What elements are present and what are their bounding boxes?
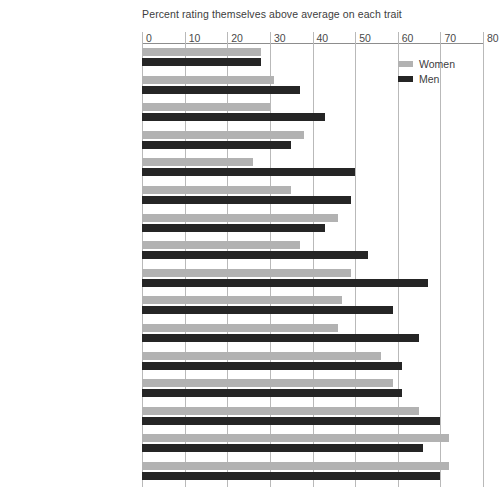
gridline-70	[440, 32, 441, 487]
chart-title: Percent rating themselves above average …	[0, 8, 498, 20]
bar-men	[142, 279, 428, 287]
x-tick-label-30: 30	[270, 32, 286, 44]
bar-men	[142, 58, 261, 66]
legend: Women Men	[398, 56, 455, 86]
bar-men	[142, 168, 355, 176]
legend-label-women: Women	[419, 58, 455, 70]
gridline-80	[483, 32, 484, 487]
bar-women	[142, 76, 274, 84]
bar-women	[142, 158, 253, 166]
bar-men	[142, 389, 402, 397]
bar-women	[142, 186, 291, 194]
bar-women	[142, 434, 449, 442]
bar-women	[142, 352, 381, 360]
bar-women	[142, 462, 449, 470]
legend-swatch-men	[398, 76, 413, 82]
bar-women	[142, 103, 270, 111]
bar-women	[142, 131, 304, 139]
bar-men	[142, 472, 440, 480]
legend-swatch-women	[398, 61, 413, 67]
x-tick-label-0: 0	[142, 32, 152, 44]
bar-men	[142, 444, 423, 452]
x-tick-label-20: 20	[227, 32, 243, 44]
bar-men	[142, 362, 402, 370]
x-tick-label-40: 40	[313, 32, 329, 44]
bar-women	[142, 379, 393, 387]
bar-women	[142, 269, 351, 277]
plot-area: 01020304050607080 Artistic abilityPublic…	[142, 44, 483, 487]
bar-men	[142, 141, 291, 149]
bar-women	[142, 324, 338, 332]
x-tick-label-10: 10	[185, 32, 201, 44]
legend-label-men: Men	[419, 73, 439, 85]
bar-men	[142, 251, 368, 259]
x-tick-label-60: 60	[398, 32, 414, 44]
bar-women	[142, 407, 419, 415]
x-tick-label-80: 80	[483, 32, 499, 44]
bar-men	[142, 196, 351, 204]
bar-men	[142, 113, 325, 121]
bar-men	[142, 334, 419, 342]
bar-women	[142, 296, 342, 304]
bar-men	[142, 417, 440, 425]
x-tick-label-50: 50	[355, 32, 371, 44]
legend-item-men: Men	[398, 71, 455, 86]
bar-men	[142, 306, 393, 314]
bar-women	[142, 48, 261, 56]
bar-men	[142, 224, 325, 232]
legend-item-women: Women	[398, 56, 455, 71]
bar-women	[142, 241, 300, 249]
x-tick-label-70: 70	[440, 32, 456, 44]
bar-men	[142, 86, 300, 94]
bar-women	[142, 214, 338, 222]
